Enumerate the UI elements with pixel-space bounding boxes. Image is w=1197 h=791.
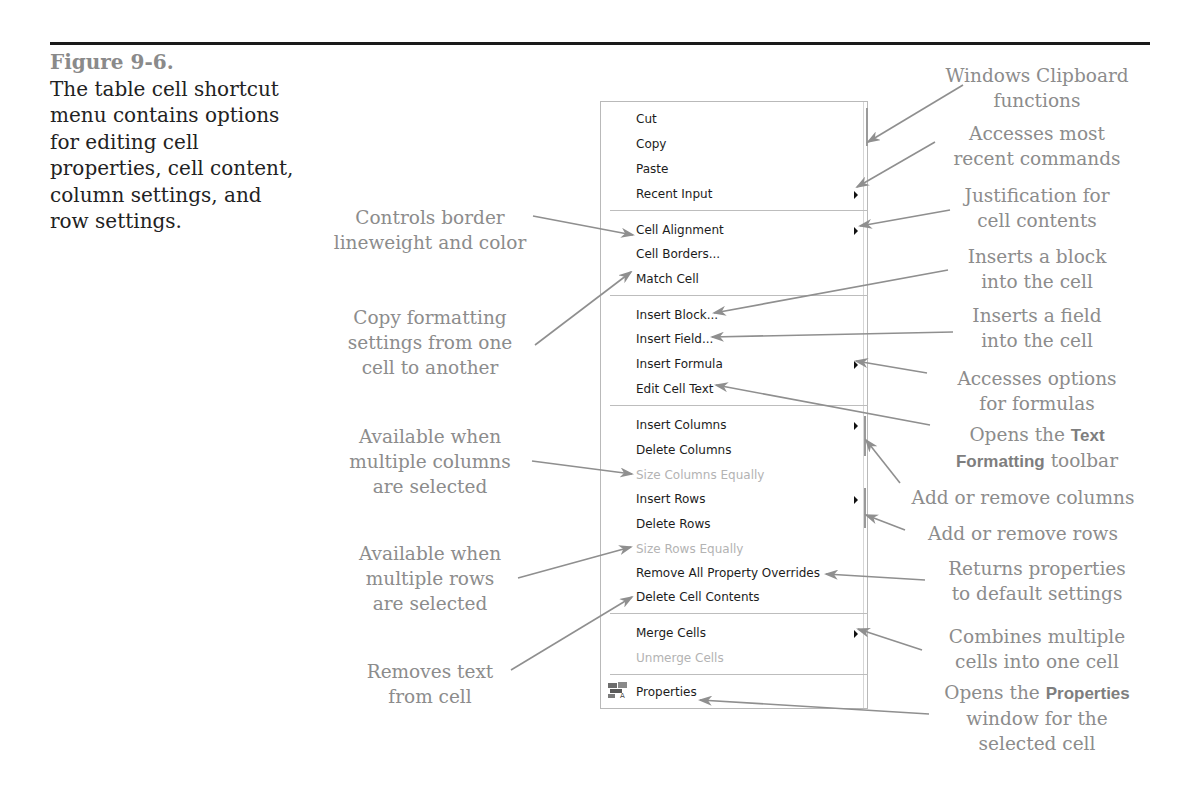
annotation-cell-borders: Controls border lineweight and color (315, 205, 545, 255)
rows-bracket (864, 488, 866, 528)
menu-item-unmerge-cells: Unmerge Cells (636, 651, 724, 665)
menu-separator (610, 295, 868, 296)
annotation-formula: Accesses options for formulas (917, 366, 1157, 416)
menu-item-edit-cell-text[interactable]: Edit Cell Text (636, 382, 714, 396)
menu-item-cell-borders[interactable]: Cell Borders... (636, 247, 720, 261)
annotation-line: Opens the Properties (917, 680, 1157, 706)
annotation-justification: Justification for cell contents (917, 183, 1157, 233)
menu-item-properties[interactable]: Properties (636, 685, 697, 699)
annotation-line: into the cell (917, 328, 1157, 353)
annotation-line: Inserts a field (917, 303, 1157, 328)
annotation-line: recent commands (917, 146, 1157, 171)
menu-item-match-cell[interactable]: Match Cell (636, 272, 699, 286)
annotation-line: from cell (355, 684, 505, 709)
svg-text:A: A (620, 692, 625, 699)
figure-caption-text: The table cell shortcut menu contains op… (50, 77, 293, 234)
submenu-arrow-icon (854, 361, 858, 369)
annotation-text: Opens the (944, 682, 1045, 703)
annotation-line: Formatting toolbar (917, 448, 1157, 474)
annotation-line: functions (917, 88, 1157, 113)
annotation-line: cells into one cell (917, 649, 1157, 674)
menu-separator (610, 613, 868, 614)
annotation-size-columns: Available when multiple columns are sele… (330, 424, 530, 499)
menu-item-size-columns-equally: Size Columns Equally (636, 468, 764, 482)
annotation-properties: Opens the Properties window for the sele… (917, 680, 1157, 756)
annotation-line: Combines multiple (917, 624, 1157, 649)
annotation-line: Accesses most (917, 121, 1157, 146)
annotation-line: are selected (330, 591, 530, 616)
menu-item-insert-formula[interactable]: Insert Formula (636, 357, 723, 371)
top-rule (50, 42, 1150, 45)
menu-item-paste[interactable]: Paste (636, 162, 668, 176)
menu-separator (610, 674, 868, 675)
annotation-line: selected cell (917, 731, 1157, 756)
annotation-match-cell: Copy formatting settings from one cell t… (330, 305, 530, 380)
submenu-arrow-icon (854, 630, 858, 638)
menu-separator (610, 210, 868, 211)
columns-bracket (864, 416, 866, 456)
menu-separator (610, 405, 868, 406)
annotation-text: Opens the (969, 424, 1070, 445)
annotation-line: Copy formatting (330, 305, 530, 330)
submenu-arrow-icon (854, 191, 858, 199)
annotation-line: Add or remove columns (893, 485, 1153, 510)
annotation-line: Returns properties (917, 556, 1157, 581)
annotation-text-formatting: Opens the Text Formatting toolbar (917, 422, 1157, 474)
annotation-line: Windows Clipboard (917, 63, 1157, 88)
menu-item-insert-rows[interactable]: Insert Rows (636, 492, 705, 506)
menu-item-insert-columns[interactable]: Insert Columns (636, 418, 726, 432)
annotation-line: Add or remove rows (893, 521, 1153, 546)
menu-item-cut[interactable]: Cut (636, 112, 657, 126)
annotation-bold: Formatting (956, 452, 1045, 471)
table-cell-shortcut-menu: Cut Copy Paste Recent Input Cell Alignme… (600, 101, 868, 709)
annotation-recent: Accesses most recent commands (917, 121, 1157, 171)
menu-item-delete-cell-contents[interactable]: Delete Cell Contents (636, 590, 759, 604)
annotation-delete-contents: Removes text from cell (355, 659, 505, 709)
annotation-line: cell contents (917, 208, 1157, 233)
annotation-overrides: Returns properties to default settings (917, 556, 1157, 606)
annotation-line: for formulas (917, 391, 1157, 416)
annotation-line: Opens the Text (917, 422, 1157, 448)
annotation-size-rows: Available when multiple rows are selecte… (330, 541, 530, 616)
annotation-line: Inserts a block (917, 244, 1157, 269)
menu-item-recent-input[interactable]: Recent Input (636, 187, 712, 201)
properties-icon: A (607, 681, 629, 699)
annotation-line: Justification for (917, 183, 1157, 208)
annotation-line: are selected (330, 474, 530, 499)
annotation-columns: Add or remove columns (893, 485, 1153, 510)
annotation-rows: Add or remove rows (893, 521, 1153, 546)
annotation-bold: Properties (1046, 684, 1130, 703)
menu-item-insert-block[interactable]: Insert Block... (636, 308, 718, 322)
menu-item-cell-alignment[interactable]: Cell Alignment (636, 223, 724, 237)
menu-item-delete-rows[interactable]: Delete Rows (636, 517, 710, 531)
menu-item-delete-columns[interactable]: Delete Columns (636, 443, 731, 457)
annotation-clipboard: Windows Clipboard functions (917, 63, 1157, 113)
annotation-line: multiple columns (330, 449, 530, 474)
annotation-line: Removes text (355, 659, 505, 684)
menu-item-remove-all-property-overrides[interactable]: Remove All Property Overrides (636, 566, 820, 580)
menu-item-size-rows-equally: Size Rows Equally (636, 542, 743, 556)
menu-item-insert-field[interactable]: Insert Field... (636, 332, 713, 346)
annotation-line: cell to another (330, 355, 530, 380)
annotation-line: settings from one (330, 330, 530, 355)
clipboard-bracket (866, 108, 868, 146)
annotation-bold: Text (1071, 426, 1105, 445)
annotation-line: window for the (917, 706, 1157, 731)
figure-label: Figure 9-6. (50, 49, 300, 76)
submenu-arrow-icon (854, 227, 858, 235)
menu-item-merge-cells[interactable]: Merge Cells (636, 626, 706, 640)
annotation-merge: Combines multiple cells into one cell (917, 624, 1157, 674)
annotation-line: Accesses options (917, 366, 1157, 391)
submenu-arrow-icon (854, 496, 858, 504)
annotation-line: into the cell (917, 269, 1157, 294)
annotation-line: to default settings (917, 581, 1157, 606)
annotation-line: multiple rows (330, 566, 530, 591)
figure-caption: Figure 9-6. The table cell shortcut menu… (50, 49, 300, 235)
annotation-line: Available when (330, 541, 530, 566)
menu-item-copy[interactable]: Copy (636, 137, 666, 151)
annotation-insert-field: Inserts a field into the cell (917, 303, 1157, 353)
annotation-line: Controls border (315, 205, 545, 230)
annotation-text: toolbar (1045, 450, 1118, 471)
submenu-arrow-icon (854, 422, 858, 430)
annotation-line: lineweight and color (315, 230, 545, 255)
